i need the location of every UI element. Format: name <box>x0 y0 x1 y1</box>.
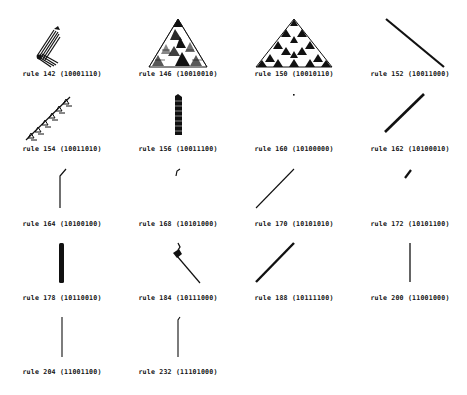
rule-152-label: rule 152 (10011000) <box>352 70 467 78</box>
rule-146-pattern <box>120 10 236 70</box>
rule-142-cell: rule 142 (10001110) <box>4 10 120 84</box>
rule-146-cell: rule 146 (10010010) <box>120 10 236 84</box>
rule-200-pattern <box>352 234 467 294</box>
rule-232-cell: rule 232 (11101000) <box>120 308 236 382</box>
rule-188-label: rule 188 (10111100) <box>236 294 352 302</box>
rule-142-label: rule 142 (10001110) <box>4 70 120 78</box>
rule-162-label: rule 162 (10100010) <box>352 145 467 153</box>
rule-160-label: rule 160 (10100000) <box>236 145 352 153</box>
rule-178-cell: rule 178 (10110010) <box>4 234 120 308</box>
rule-156-cell: rule 156 (10011100) <box>120 85 236 159</box>
rule-178-pattern <box>4 234 120 294</box>
rule-154-cell: rule 154 (10011010) <box>4 85 120 159</box>
rule-162-cell: rule 162 (10100010) <box>352 85 467 159</box>
rule-162-pattern <box>352 85 467 145</box>
rule-204-cell: rule 204 (11001100) <box>4 308 120 382</box>
rule-146-label: rule 146 (10010010) <box>120 70 236 78</box>
rule-184-pattern <box>120 234 236 294</box>
rule-204-label: rule 204 (11001100) <box>4 368 120 376</box>
rule-204-pattern <box>4 308 120 368</box>
rule-156-label: rule 156 (10011100) <box>120 145 236 153</box>
rule-168-label: rule 168 (10101000) <box>120 220 236 228</box>
rule-142-pattern <box>4 10 120 70</box>
rule-172-cell: rule 172 (10101100) <box>352 160 467 234</box>
rule-184-cell: rule 184 (10111000) <box>120 234 236 308</box>
rule-232-label: rule 232 (11101000) <box>120 368 236 376</box>
rule-164-pattern <box>4 160 120 220</box>
rule-170-pattern <box>236 160 352 220</box>
rule-168-cell: rule 168 (10101000) <box>120 160 236 234</box>
rule-154-label: rule 154 (10011010) <box>4 145 120 153</box>
rule-160-cell: rule 160 (10100000) <box>236 85 352 159</box>
rule-150-pattern <box>236 10 352 70</box>
rule-168-pattern <box>120 160 236 220</box>
rule-152-pattern <box>352 10 467 70</box>
rule-164-label: rule 164 (10100100) <box>4 220 120 228</box>
rule-232-pattern <box>120 308 236 368</box>
rule-200-label: rule 200 (11001000) <box>352 294 467 302</box>
rule-172-pattern <box>352 160 467 220</box>
rule-172-label: rule 172 (10101100) <box>352 220 467 228</box>
rule-150-label: rule 150 (10010110) <box>236 70 352 78</box>
rule-188-cell: rule 188 (10111100) <box>236 234 352 308</box>
rule-184-label: rule 184 (10111000) <box>120 294 236 302</box>
rule-200-cell: rule 200 (11001000) <box>352 234 467 308</box>
rule-152-cell: rule 152 (10011000) <box>352 10 467 84</box>
rule-164-cell: rule 164 (10100100) <box>4 160 120 234</box>
rule-156-pattern <box>120 85 236 145</box>
rule-170-cell: rule 170 (10101010) <box>236 160 352 234</box>
rule-178-label: rule 178 (10110010) <box>4 294 120 302</box>
rule-188-pattern <box>236 234 352 294</box>
rule-154-pattern <box>4 85 120 145</box>
rule-150-cell: rule 150 (10010110) <box>236 10 352 84</box>
rule-170-label: rule 170 (10101010) <box>236 220 352 228</box>
rule-160-pattern <box>236 85 352 145</box>
